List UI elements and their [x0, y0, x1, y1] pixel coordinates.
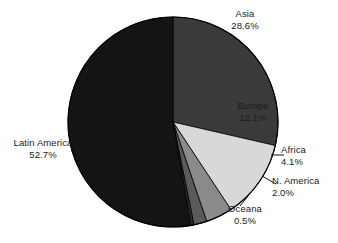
pie-label-africa-value: 4.1%: [281, 156, 337, 168]
pie-label-europe: Europe 12.1%: [222, 100, 284, 124]
pie-chart: Asia 28.6% Europe 12.1% Africa 4.1% N. A…: [0, 0, 338, 243]
pie-label-asia-value: 28.6%: [212, 20, 278, 32]
pie-label-oceana-value: 0.5%: [216, 215, 274, 227]
pie-label-oceana-name: Oceana: [216, 203, 274, 215]
pie-label-africa-name: Africa: [281, 144, 337, 156]
pie-label-north-america-value: 2.0%: [272, 187, 338, 199]
pie-label-latin-america-name: Latin America: [2, 137, 84, 149]
pie-label-africa: Africa 4.1%: [281, 144, 337, 168]
pie-label-north-america-name: N. America: [272, 175, 338, 187]
pie-label-asia: Asia 28.6%: [212, 8, 278, 32]
pie-label-latin-america: Latin America 52.7%: [2, 137, 84, 161]
pie-label-north-america: N. America 2.0%: [272, 175, 338, 199]
pie-label-europe-name: Europe: [222, 100, 284, 112]
pie-slice-latin-america: [68, 17, 191, 227]
pie-label-europe-value: 12.1%: [222, 112, 284, 124]
pie-label-asia-name: Asia: [212, 8, 278, 20]
pie-chart-graphic: [0, 0, 338, 243]
pie-label-latin-america-value: 52.7%: [2, 149, 84, 161]
pie-label-oceana: Oceana 0.5%: [216, 203, 274, 227]
